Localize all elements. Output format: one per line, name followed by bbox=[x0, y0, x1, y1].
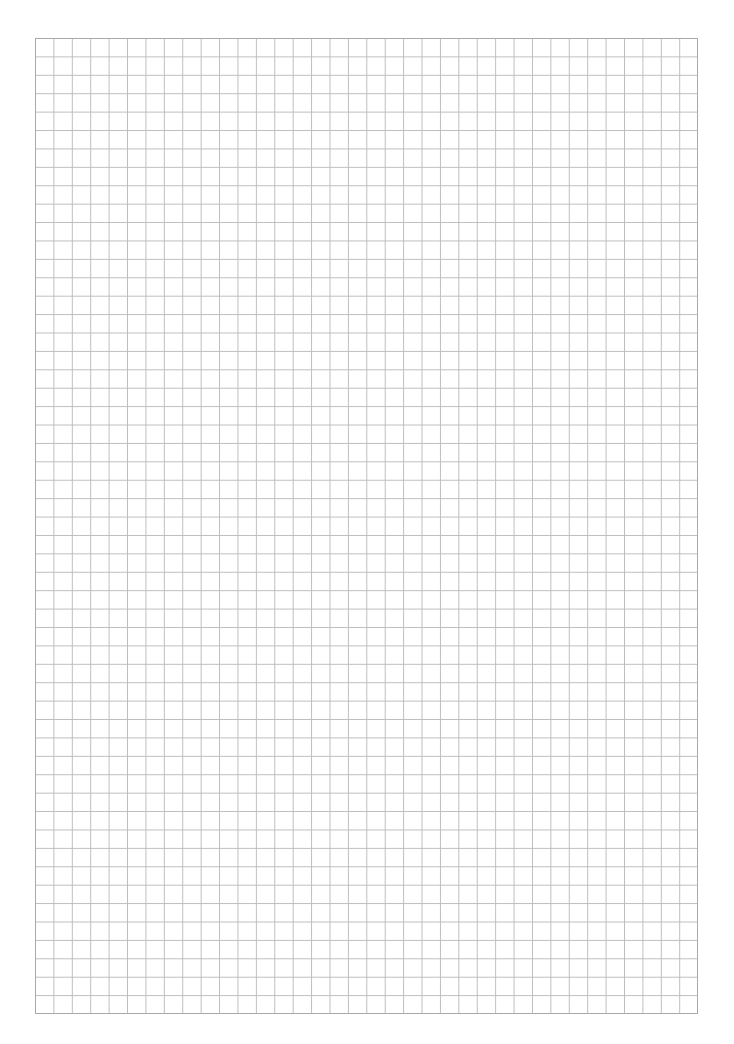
graph-paper-grid bbox=[35, 38, 698, 1014]
